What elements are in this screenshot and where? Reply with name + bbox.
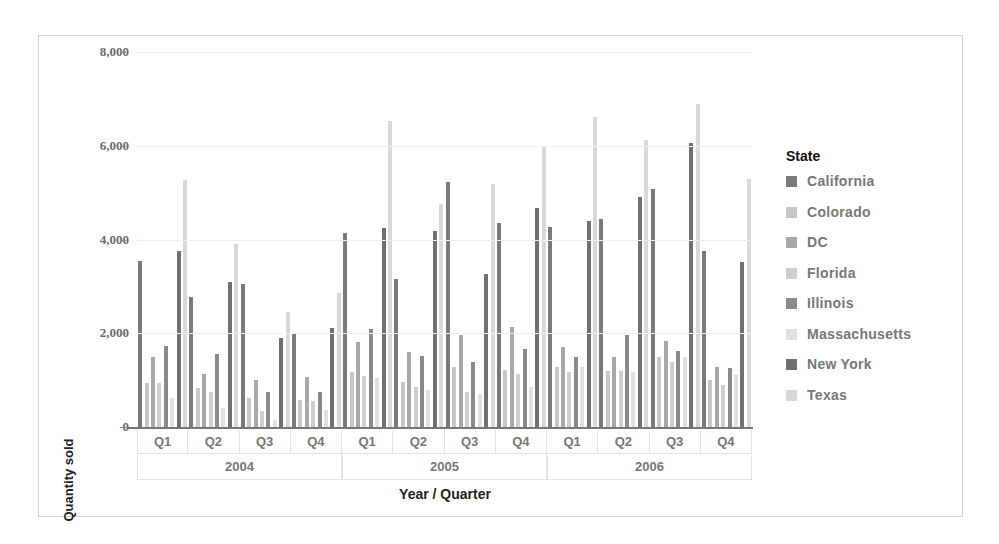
bar-colorado[interactable] [606, 371, 610, 427]
bar-massachusetts[interactable] [734, 375, 738, 427]
legend-item-illinois[interactable]: Illinois [786, 295, 911, 326]
bar-colorado[interactable] [247, 398, 251, 427]
bar-california[interactable] [599, 219, 603, 427]
bar-florida[interactable] [362, 376, 366, 427]
bar-colorado[interactable] [350, 372, 354, 427]
bar-texas[interactable] [644, 140, 648, 427]
bar-colorado[interactable] [452, 367, 456, 427]
bar-new-york[interactable] [279, 338, 283, 427]
bar-florida[interactable] [721, 385, 725, 427]
bar-texas[interactable] [747, 179, 751, 427]
bar-texas[interactable] [593, 117, 597, 427]
bar-colorado[interactable] [401, 382, 405, 427]
bar-new-york[interactable] [177, 251, 181, 427]
bar-illinois[interactable] [369, 329, 373, 427]
bar-dc[interactable] [561, 347, 565, 427]
bar-new-york[interactable] [484, 274, 488, 427]
bar-dc[interactable] [254, 380, 258, 427]
bar-florida[interactable] [670, 362, 674, 427]
legend-item-california[interactable]: California [786, 173, 911, 204]
bar-texas[interactable] [696, 104, 700, 427]
bar-massachusetts[interactable] [631, 372, 635, 427]
bar-california[interactable] [138, 261, 142, 427]
bar-illinois[interactable] [215, 354, 219, 427]
bar-illinois[interactable] [471, 362, 475, 427]
bar-texas[interactable] [286, 312, 290, 427]
legend-item-massachusetts[interactable]: Massachusetts [786, 326, 911, 357]
bar-illinois[interactable] [318, 392, 322, 427]
bar-colorado[interactable] [708, 380, 712, 427]
bar-colorado[interactable] [503, 370, 507, 427]
bar-illinois[interactable] [625, 335, 629, 427]
bar-dc[interactable] [356, 342, 360, 427]
bar-dc[interactable] [664, 341, 668, 427]
bar-massachusetts[interactable] [529, 387, 533, 427]
bar-massachusetts[interactable] [273, 420, 277, 427]
bar-illinois[interactable] [574, 357, 578, 427]
bar-california[interactable] [548, 227, 552, 427]
bar-dc[interactable] [407, 352, 411, 427]
bar-california[interactable] [189, 297, 193, 427]
bar-dc[interactable] [715, 367, 719, 427]
bar-illinois[interactable] [523, 349, 527, 427]
bar-florida[interactable] [465, 392, 469, 427]
legend-item-new-york[interactable]: New York [786, 356, 911, 387]
bar-massachusetts[interactable] [170, 398, 174, 427]
legend-item-colorado[interactable]: Colorado [786, 204, 911, 235]
bar-new-york[interactable] [228, 282, 232, 427]
bar-dc[interactable] [305, 377, 309, 427]
bar-dc[interactable] [459, 335, 463, 427]
bar-california[interactable] [651, 189, 655, 427]
bar-illinois[interactable] [676, 351, 680, 427]
bar-dc[interactable] [612, 357, 616, 427]
bar-massachusetts[interactable] [221, 408, 225, 427]
bar-massachusetts[interactable] [478, 394, 482, 427]
bar-florida[interactable] [414, 387, 418, 427]
bar-massachusetts[interactable] [375, 378, 379, 427]
bar-texas[interactable] [491, 184, 495, 427]
bar-florida[interactable] [260, 411, 264, 427]
bar-dc[interactable] [151, 357, 155, 427]
bar-colorado[interactable] [555, 367, 559, 427]
bar-colorado[interactable] [298, 400, 302, 427]
bar-illinois[interactable] [164, 346, 168, 427]
bar-massachusetts[interactable] [324, 410, 328, 427]
bar-florida[interactable] [311, 401, 315, 427]
bar-texas[interactable] [183, 180, 187, 427]
bar-california[interactable] [241, 284, 245, 427]
bar-california[interactable] [702, 251, 706, 427]
bar-new-york[interactable] [535, 208, 539, 427]
bar-dc[interactable] [510, 327, 514, 427]
bar-illinois[interactable] [420, 356, 424, 427]
bar-texas[interactable] [337, 293, 341, 427]
bar-colorado[interactable] [657, 357, 661, 427]
bar-texas[interactable] [439, 204, 443, 427]
bar-florida[interactable] [619, 371, 623, 427]
bar-new-york[interactable] [740, 262, 744, 427]
bar-california[interactable] [394, 279, 398, 427]
bar-california[interactable] [497, 223, 501, 427]
bar-massachusetts[interactable] [580, 367, 584, 427]
bar-florida[interactable] [567, 372, 571, 427]
bar-texas[interactable] [388, 121, 392, 427]
bar-dc[interactable] [202, 374, 206, 427]
bar-new-york[interactable] [433, 231, 437, 427]
bar-florida[interactable] [157, 383, 161, 427]
legend-item-dc[interactable]: DC [786, 234, 911, 265]
bar-texas[interactable] [542, 146, 546, 427]
bar-massachusetts[interactable] [426, 390, 430, 428]
bar-california[interactable] [446, 182, 450, 427]
bar-colorado[interactable] [145, 383, 149, 427]
bar-florida[interactable] [516, 374, 520, 427]
legend-item-texas[interactable]: Texas [786, 387, 911, 418]
bar-new-york[interactable] [689, 143, 693, 427]
legend-item-florida[interactable]: Florida [786, 265, 911, 296]
bar-illinois[interactable] [728, 368, 732, 427]
bar-florida[interactable] [209, 392, 213, 427]
bar-illinois[interactable] [266, 392, 270, 427]
bar-new-york[interactable] [330, 328, 334, 427]
bar-massachusetts[interactable] [683, 357, 687, 427]
bar-texas[interactable] [234, 244, 238, 427]
bar-colorado[interactable] [196, 388, 200, 427]
bar-new-york[interactable] [587, 221, 591, 427]
